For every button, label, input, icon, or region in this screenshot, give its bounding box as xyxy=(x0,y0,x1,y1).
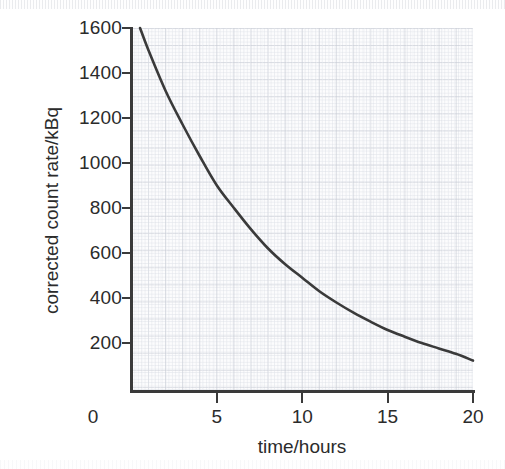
y-tick-1400 xyxy=(122,72,131,74)
x-tick-label-10: 10 xyxy=(272,406,332,427)
y-tick-label-800: 800 xyxy=(62,198,122,217)
plot-grid-texture xyxy=(131,28,473,392)
x-tick-label-15: 15 xyxy=(358,406,418,427)
x-tick-15 xyxy=(387,392,389,403)
y-axis-line xyxy=(130,27,133,393)
plot-area xyxy=(131,28,473,392)
y-tick-1000 xyxy=(122,162,131,164)
y-tick-1600 xyxy=(122,27,131,29)
x-axis-title: time/hours xyxy=(131,436,473,457)
y-tick-label-200: 200 xyxy=(62,333,122,352)
x-axis-zero-label: 0 xyxy=(73,406,113,427)
y-tick-400 xyxy=(122,297,131,299)
y-tick-label-1600: 1600 xyxy=(62,18,122,37)
y-tick-200 xyxy=(122,342,131,344)
x-tick-5 xyxy=(216,392,218,403)
y-tick-label-1200: 1200 xyxy=(62,108,122,127)
y-tick-1200 xyxy=(122,117,131,119)
y-tick-600 xyxy=(122,252,131,254)
y-tick-label-600: 600 xyxy=(62,243,122,262)
y-tick-label-1400: 1400 xyxy=(62,63,122,82)
y-axis-title: corrected count rate/kBq xyxy=(41,41,62,381)
scan-artifact-bottom xyxy=(0,460,505,469)
y-tick-label-400: 400 xyxy=(62,288,122,307)
x-tick-label-5: 5 xyxy=(187,406,247,427)
x-tick-label-20: 20 xyxy=(443,406,503,427)
x-tick-10 xyxy=(301,392,303,403)
y-tick-800 xyxy=(122,207,131,209)
chart-figure: 2004006008001000120014001600 5101520 0 t… xyxy=(0,0,505,469)
y-tick-label-1000: 1000 xyxy=(62,153,122,172)
x-tick-20 xyxy=(472,392,474,403)
